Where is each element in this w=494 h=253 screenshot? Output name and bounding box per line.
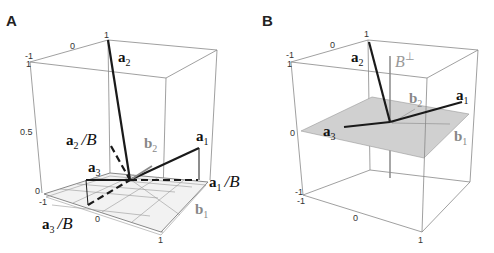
label-b1: b1 xyxy=(195,201,208,220)
svg-text:1: 1 xyxy=(158,235,163,245)
panel-b-label: B xyxy=(262,12,273,29)
figure: A xyxy=(0,0,494,253)
svg-text:1: 1 xyxy=(26,59,31,69)
svg-text:0.5: 0.5 xyxy=(20,127,33,137)
svg-text:0: 0 xyxy=(353,213,358,223)
label-b1: b1 xyxy=(454,128,467,147)
label-a2-over-B: a2/B xyxy=(66,130,97,151)
svg-text:1: 1 xyxy=(364,29,369,39)
svg-text:1: 1 xyxy=(287,59,292,69)
panel-a: A xyxy=(6,12,240,245)
label-a1: a1 xyxy=(196,128,209,147)
vector-a1 xyxy=(130,148,199,180)
panel-b: B -1 0 xyxy=(262,12,478,245)
label-a2: a2 xyxy=(351,49,364,68)
svg-text:1: 1 xyxy=(104,30,109,40)
label-a1-over-B: a1/B xyxy=(209,172,240,193)
svg-text:1: 1 xyxy=(418,235,423,245)
label-B-perp: B⊥ xyxy=(395,50,415,70)
svg-text:0: 0 xyxy=(330,40,335,50)
svg-text:0: 0 xyxy=(95,214,100,224)
svg-text:-1: -1 xyxy=(297,196,305,206)
label-a3: a3 xyxy=(88,159,101,178)
label-a2: a2 xyxy=(118,49,131,68)
label-a3-over-B: a3/B xyxy=(42,214,73,235)
svg-text:0: 0 xyxy=(70,41,75,51)
label-b2: b2 xyxy=(144,135,157,154)
svg-text:0: 0 xyxy=(35,186,40,196)
svg-text:0: 0 xyxy=(290,128,295,138)
svg-text:-1: -1 xyxy=(39,197,47,207)
panel-a-label: A xyxy=(6,12,17,29)
